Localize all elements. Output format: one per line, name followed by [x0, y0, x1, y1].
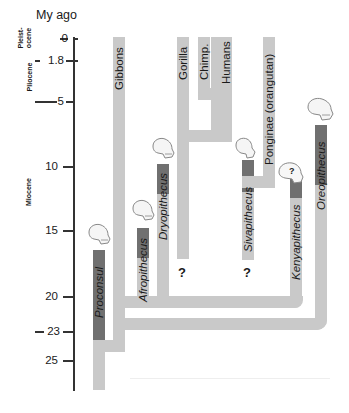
tick-20: [63, 296, 74, 298]
tick-1.8: [66, 60, 78, 62]
tick-label-20: 20: [28, 290, 58, 302]
tick-0: [74, 38, 78, 40]
tick-23: [63, 331, 74, 333]
skull-icon-oreopithecus: [305, 96, 335, 124]
label-dryopithecus: Dryopithecus: [157, 173, 169, 240]
label-proconsul: Proconsul: [93, 267, 105, 318]
skull-icon-proconsul: [86, 222, 112, 248]
label-sivapithecus: Sivapithecus: [242, 187, 254, 252]
tick-label-15: 15: [28, 224, 58, 236]
label-gorilla: Gorilla: [177, 47, 189, 80]
tick-15: [63, 230, 74, 232]
label-humans: Humans: [220, 41, 232, 84]
skull-icon-dryopithecus: [150, 136, 176, 162]
tick-25: [63, 360, 74, 362]
label-kenyapithecus: Kenyapithecus: [290, 205, 302, 280]
time-axis-line: [73, 37, 75, 391]
unknown-marker: ?: [178, 265, 186, 280]
epoch-pleistocene-line2: ocene: [25, 18, 33, 58]
tick-label-25: 25: [28, 354, 58, 366]
branch-22my: [113, 318, 327, 330]
tick-label-23: 23: [30, 325, 60, 337]
epoch-pleistocene-line1: Pleist-: [17, 18, 25, 58]
skull-icon-sivapithecus: [232, 136, 258, 162]
skull-icon-kenyapithecus: ?: [276, 160, 306, 186]
label-ponginae: Ponginae (orangutan): [263, 54, 275, 165]
tick-label-1.8: 1.8: [34, 54, 64, 66]
label-afropithecus: Afropithecus: [137, 238, 149, 302]
unknown-marker: ?: [289, 166, 295, 176]
label-chimp: Chimp.: [198, 44, 210, 80]
label-oreopithecus: Oreopithecus: [315, 142, 327, 210]
tick-label-5: 5: [34, 95, 64, 107]
axis-title: My ago: [36, 8, 77, 22]
tick-5: [66, 101, 74, 103]
skull-icon-afropithecus: [130, 198, 156, 224]
scan-artifact: [130, 378, 330, 379]
label-gibbons: Gibbons: [113, 47, 125, 90]
epoch-pliocene: Pliocene: [26, 57, 34, 97]
tick-10: [63, 166, 74, 168]
tick-label-0: 0: [38, 32, 68, 44]
epoch-pleistocene: Pleist- ocene: [17, 18, 33, 58]
epoch-miocene: Miocene: [25, 162, 33, 222]
unknown-marker: ?: [243, 265, 251, 280]
